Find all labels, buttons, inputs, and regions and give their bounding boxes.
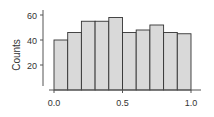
histogram-bar [150,25,164,90]
histogram-bar [109,18,123,91]
histogram-bar [68,33,82,91]
x-axis: 0.00.51.0 [48,90,201,108]
histogram-bar [95,21,109,90]
histogram-bar [123,33,137,91]
histogram-bar [164,33,178,91]
histogram-bar [177,34,191,90]
bars [54,18,191,91]
x-tick-label: 0.0 [48,98,61,108]
y-axis: 204060 [27,10,43,86]
histogram-bar [54,40,68,90]
histogram-chart: Counts 204060 0.00.51.0 [0,0,214,117]
histogram-bar [136,30,150,90]
x-tick-label: 0.5 [116,98,129,108]
y-tick-label: 20 [27,61,37,71]
x-tick-label: 1.0 [185,98,198,108]
y-tick-label: 60 [27,11,37,21]
histogram-bar [81,21,95,90]
y-tick-label: 40 [27,36,37,46]
y-axis-label: Counts [11,39,22,71]
